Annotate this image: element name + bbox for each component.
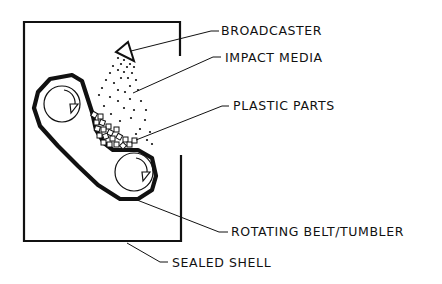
rotating-belt (34, 75, 156, 199)
tumbler-diagram: BROADCASTER IMPACT MEDIA PLASTIC PARTS R… (0, 0, 442, 284)
label-plastic-parts: PLASTIC PARTS (233, 99, 335, 113)
upper-pulley (44, 86, 80, 122)
label-rotating-belt: ROTATING BELT/TUMBLER (231, 225, 404, 239)
leader-impact-media (133, 57, 221, 93)
lower-pulley (115, 153, 153, 191)
label-impact-media: IMPACT MEDIA (225, 51, 323, 65)
leader-rotating-belt (137, 200, 228, 232)
leader-broadcaster (131, 31, 219, 51)
leader-lines (127, 31, 229, 262)
leader-plastic-parts (136, 106, 229, 140)
label-broadcaster: BROADCASTER (221, 24, 322, 38)
diagram-drawing (0, 0, 442, 284)
leader-sealed-shell (127, 243, 168, 262)
label-sealed-shell: SEALED SHELL (172, 256, 271, 270)
plastic-parts-cluster (91, 111, 137, 149)
